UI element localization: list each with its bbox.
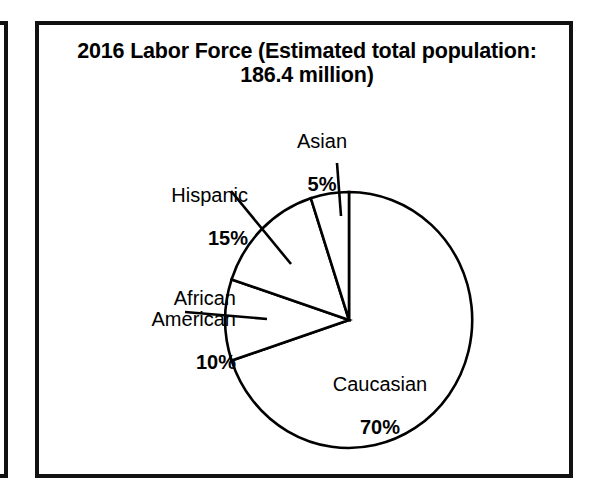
callout-hispanic-name: Hispanic bbox=[88, 185, 248, 207]
figure-stage: 2016 Labor Force (Estimated total popula… bbox=[0, 0, 606, 498]
callout-hispanic-percent: 15% bbox=[88, 228, 248, 250]
callout-caucasian-percent: 70% bbox=[300, 417, 460, 439]
callout-asian: Asian 5% bbox=[262, 109, 382, 217]
callout-african-american: African American 10% bbox=[56, 266, 236, 396]
callout-asian-percent: 5% bbox=[262, 174, 382, 196]
callout-caucasian-name: Caucasian bbox=[300, 374, 460, 396]
callout-african-american-name: African American bbox=[56, 288, 236, 331]
callout-hispanic: Hispanic 15% bbox=[88, 163, 248, 271]
callout-african-american-percent: 10% bbox=[56, 352, 236, 374]
callout-caucasian: Caucasian 70% bbox=[300, 352, 460, 460]
callout-asian-name: Asian bbox=[262, 131, 382, 153]
